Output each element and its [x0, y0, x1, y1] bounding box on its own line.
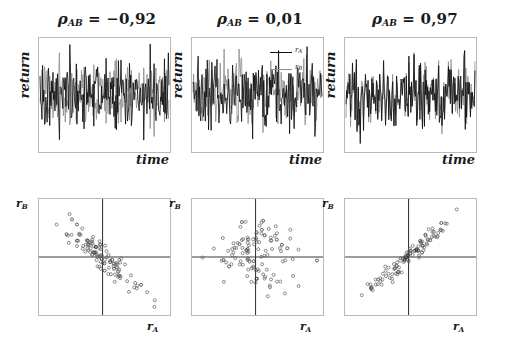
scatter-canvas [39, 199, 170, 315]
scatter-point [227, 249, 230, 252]
scatter-point [232, 251, 235, 254]
scatter-point [437, 231, 440, 234]
scatter-point [276, 280, 279, 283]
scatter-point [271, 248, 274, 251]
scatter-point [103, 269, 106, 272]
scatter-point [247, 238, 250, 241]
scatter-y-label-right: rB [322, 197, 334, 211]
scatter-point [232, 242, 235, 245]
scatter-point [238, 263, 241, 266]
scatter-point [221, 236, 224, 239]
correlation-value: 0,01 [266, 10, 303, 28]
scatter-point [275, 238, 278, 241]
scatter-point [230, 263, 233, 266]
scatter-point [387, 272, 390, 275]
scatter-point [126, 280, 129, 283]
scatter-point [252, 260, 255, 263]
scatter-point [384, 265, 387, 268]
scatter-point [266, 253, 269, 256]
scatter-point [269, 236, 272, 239]
scatter-point [113, 280, 116, 283]
scatter-x-label-right: rA [453, 320, 464, 334]
scatter-point [55, 223, 58, 226]
scatter-y-label-left: rB [16, 197, 28, 211]
scatter-point [241, 246, 244, 249]
scatter-point [222, 280, 225, 283]
scatter-point [113, 273, 116, 276]
scatter-point [272, 273, 275, 276]
scatter-point [153, 305, 156, 308]
rho-symbol: ρ [372, 10, 382, 28]
y-axis-label-middle: return [170, 46, 186, 104]
scatter-point [260, 228, 263, 231]
scatter-points [360, 208, 458, 297]
rho-symbol: ρ [217, 10, 227, 28]
scatter-point [222, 259, 225, 262]
scatter-plot-right [344, 198, 477, 316]
scatter-point [286, 247, 289, 250]
scatter-y-label-middle: rB [169, 197, 181, 211]
scatter-point [225, 261, 228, 264]
scatter-point [278, 247, 281, 250]
scatter-point [411, 254, 414, 257]
scatter-point [297, 248, 300, 251]
scatter-points [55, 213, 156, 309]
scatter-point [81, 227, 84, 230]
scatter-point [250, 280, 253, 283]
scatter-x-label-middle: rA [300, 320, 311, 334]
rho-symbol: ρ [58, 10, 68, 28]
scatter-point [280, 243, 283, 246]
rho-subscript: AB [227, 18, 242, 28]
scatter-point [274, 225, 277, 228]
scatter-point [391, 281, 394, 284]
scatter-point [380, 283, 383, 286]
scatter-point [431, 227, 434, 230]
timeseries-plot-right [344, 37, 477, 153]
scatter-point [103, 262, 106, 265]
scatter-point [283, 292, 286, 295]
scatter-point [289, 237, 292, 240]
scatter-point [391, 273, 394, 276]
scatter-point [146, 291, 149, 294]
scatter-point [261, 263, 264, 266]
y-axis-label-right: return [323, 46, 339, 104]
scatter-point [384, 269, 387, 272]
scatter-point [98, 240, 101, 243]
scatter-point [270, 278, 273, 281]
scatter-point [246, 241, 249, 244]
scatter-canvas [192, 199, 323, 315]
scatter-point [265, 268, 268, 271]
scatter-point [387, 266, 390, 269]
rho-subscript: AB [382, 18, 397, 28]
scatter-point [360, 294, 363, 297]
x-axis-label-middle: time [289, 152, 322, 168]
scatter-point [239, 260, 242, 263]
scatter-point [96, 265, 99, 268]
scatter-plot-middle [191, 198, 324, 316]
scatter-point [107, 266, 110, 269]
scatter-point [258, 224, 261, 227]
scatter-point [315, 259, 318, 262]
scatter-point [417, 245, 420, 248]
scatter-x-label-left: rA [147, 320, 158, 334]
scatter-point [70, 233, 73, 236]
scatter-point [105, 250, 108, 253]
scatter-points [201, 219, 318, 298]
scatter-point [129, 274, 132, 277]
scatter-point [67, 241, 70, 244]
scatter-point [134, 281, 137, 284]
scatter-point [384, 275, 387, 278]
scatter-point [84, 250, 87, 253]
equals-sign: = [88, 10, 101, 28]
scatter-point [246, 275, 249, 278]
panel-title-right: ρAB = 0,97 [340, 8, 490, 30]
scatter-point [247, 268, 250, 271]
panel-title-left: ρAB = −0,92 [32, 8, 182, 30]
scatter-point [381, 272, 384, 275]
scatter-point [297, 285, 300, 288]
scatter-point [279, 250, 282, 253]
scatter-point [128, 290, 131, 293]
scatter-canvas [345, 199, 476, 315]
scatter-point [289, 228, 292, 231]
timeseries-canvas [192, 38, 323, 152]
